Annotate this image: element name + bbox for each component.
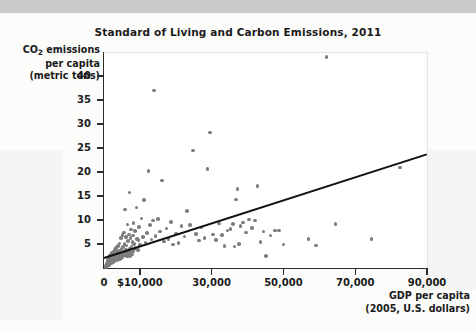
x-axis-title-line1: GDP per capita <box>389 290 470 301</box>
x-tick-label: 30,000 <box>172 277 252 288</box>
y-tick-mark <box>97 75 104 76</box>
y-axis-line <box>103 52 104 269</box>
y-tick-label: 25 <box>51 142 91 153</box>
chart-title: Standard of Living and Carbon Emissions,… <box>0 26 476 38</box>
x-tick-mark <box>426 268 427 275</box>
y-tick-mark <box>97 171 104 172</box>
x-tick-label: 50,000 <box>243 277 323 288</box>
co2-subscript: 2 <box>38 48 43 57</box>
y-tick-mark <box>97 99 104 100</box>
x-tick-mark <box>355 268 356 275</box>
x-axis-title-line2: (2005, U.S. dollars) <box>365 303 470 314</box>
y-tick-label: 10 <box>51 214 91 225</box>
y-tick-mark <box>97 195 104 196</box>
y-axis-title-line1: CO2 emissions <box>23 44 100 55</box>
y-tick-label: 35 <box>51 94 91 105</box>
plot-frame-right <box>427 52 428 269</box>
y-tick-mark <box>97 243 104 244</box>
y-tick-label: 15 <box>51 190 91 201</box>
plot-area <box>104 52 427 268</box>
x-tick-mark <box>283 268 284 275</box>
x-tick-label: 90,000 <box>387 277 467 288</box>
y-tick-label: 5 <box>51 238 91 249</box>
plot-frame-top <box>104 52 428 53</box>
y-tick-mark <box>97 219 104 220</box>
x-axis-title: GDP per capita (2005, U.S. dollars) <box>270 290 470 315</box>
x-tick-label: $10,000 <box>100 277 180 288</box>
x-tick-mark <box>211 268 212 275</box>
y-tick-mark <box>97 123 104 124</box>
y-tick-label: 20 <box>51 166 91 177</box>
chart-figure: Standard of Living and Carbon Emissions,… <box>0 0 476 330</box>
x-tick-mark <box>139 268 140 275</box>
y-tick-label: 40 <box>51 70 91 81</box>
y-axis-title-line2: per capita <box>45 58 100 69</box>
y-tick-mark <box>97 147 104 148</box>
x-tick-label: 70,000 <box>315 277 395 288</box>
y-tick-label: 30 <box>51 118 91 129</box>
x-axis-line <box>103 268 428 269</box>
